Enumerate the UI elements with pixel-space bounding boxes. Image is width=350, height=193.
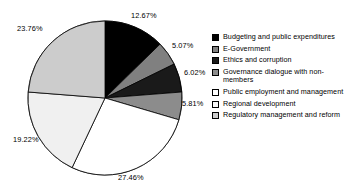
legend-swatch-icon: [212, 101, 219, 108]
legend-swatch-icon: [212, 34, 219, 41]
legend-swatch-icon: [212, 57, 219, 64]
legend-swatch-icon: [212, 69, 219, 76]
legend-item[interactable]: Regulatory management and reform: [212, 111, 350, 120]
legend-item-label: Regional development: [223, 100, 296, 109]
chart-legend: Budgeting and public expendituresE-Gover…: [212, 33, 350, 123]
pie-chart-figure: 12.67% 5.07% 6.02% 5.81% 27.46% 19.22% 2…: [0, 0, 350, 193]
legend-swatch-icon: [212, 46, 219, 53]
legend-item[interactable]: Governance dialogue with non-members: [212, 68, 350, 85]
legend-swatch-icon: [212, 89, 219, 96]
legend-item[interactable]: E-Government: [212, 45, 350, 54]
slice-label-regulatory-management: 23.76%: [17, 25, 43, 32]
legend-item-label: Ethics and corruption: [223, 56, 292, 65]
legend-item-label: E-Government: [223, 45, 270, 54]
pie-slice-group: [28, 21, 182, 175]
slice-label-ethics: 6.02%: [184, 69, 205, 76]
slice-label-public-employment: 27.46%: [118, 174, 144, 181]
legend-item[interactable]: Public employment and management: [212, 88, 350, 97]
slice-label-egovernment: 5.07%: [172, 42, 193, 49]
slice-label-regional-development: 19.22%: [13, 136, 39, 143]
slice-label-budgeting: 12.67%: [131, 12, 157, 19]
legend-item-label: Budgeting and public expenditures: [223, 33, 335, 42]
legend-item[interactable]: Budgeting and public expenditures: [212, 33, 350, 42]
legend-item[interactable]: Regional development: [212, 100, 350, 109]
legend-item-label: Regulatory management and reform: [223, 111, 340, 120]
slice-label-governance-dialogue: 5.81%: [182, 100, 203, 107]
legend-item[interactable]: Ethics and corruption: [212, 56, 350, 65]
legend-swatch-icon: [212, 112, 219, 119]
legend-item-label: Public employment and management: [223, 88, 343, 97]
legend-item-label: Governance dialogue with non-members: [223, 68, 350, 85]
